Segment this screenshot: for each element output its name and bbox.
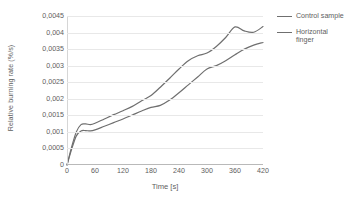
y-axis-title: Relative burning rate (%/s) [7,44,15,131]
x-axis-tick-label: 180 [145,167,157,175]
x-axis-tick-label: 420 [257,167,269,175]
gridline [67,66,263,67]
x-axis-title: Time [s] [67,182,263,191]
gridline [67,16,263,17]
y-axis-line [67,16,68,165]
gridline [67,33,263,34]
legend-item-control-sample: Control sample [277,12,347,21]
x-axis-tick-label: 240 [173,167,185,175]
x-axis-line [67,164,263,165]
y-axis-tick-labels: 00,00050,0010,00150,0020,00250,0030,0035… [20,0,64,202]
y-axis-tick-label: 0,001 [22,128,64,136]
y-axis-tick-label: 0,0045 [22,12,64,20]
y-axis-title-container: Relative burning rate (%/s) [2,0,20,175]
gridline [67,49,263,50]
y-axis-tick-label: 0,0035 [22,45,64,53]
x-axis-tick-label: 120 [117,167,129,175]
gridline [67,99,263,100]
x-axis-tick-label: 300 [201,167,213,175]
y-axis-tick-label: 0,004 [22,29,64,37]
legend-label: Horizontal finger [296,28,344,45]
gridline [67,132,263,133]
gridline [67,148,263,149]
x-axis-tick-labels: 060120180240300360420 [67,167,263,181]
y-axis-tick-label: 0,0005 [22,144,64,152]
relative-burning-rate-chart: Relative burning rate (%/s) 00,00050,001… [0,0,347,202]
y-axis-tick-label: 0,003 [22,62,64,70]
x-axis-tick-label: 360 [229,167,241,175]
gridline [67,115,263,116]
legend-label: Control sample [296,12,344,21]
y-axis-tick-label: 0 [22,161,64,169]
plot-area [67,16,263,165]
gridline [67,82,263,83]
x-axis-tick-label: 60 [91,167,99,175]
y-axis-tick-label: 0,0015 [22,111,64,119]
data-curves [67,16,263,165]
series-line [67,42,263,165]
legend-line-icon [277,32,292,33]
chart-legend: Control sample Horizontal finger [277,12,347,52]
legend-item-horizontal-finger: Horizontal finger [277,28,347,45]
legend-line-icon [277,16,292,17]
series-line [67,27,263,165]
y-axis-tick-label: 0,002 [22,95,64,103]
y-axis-tick-label: 0,0025 [22,78,64,86]
x-axis-tick-label: 0 [65,167,69,175]
